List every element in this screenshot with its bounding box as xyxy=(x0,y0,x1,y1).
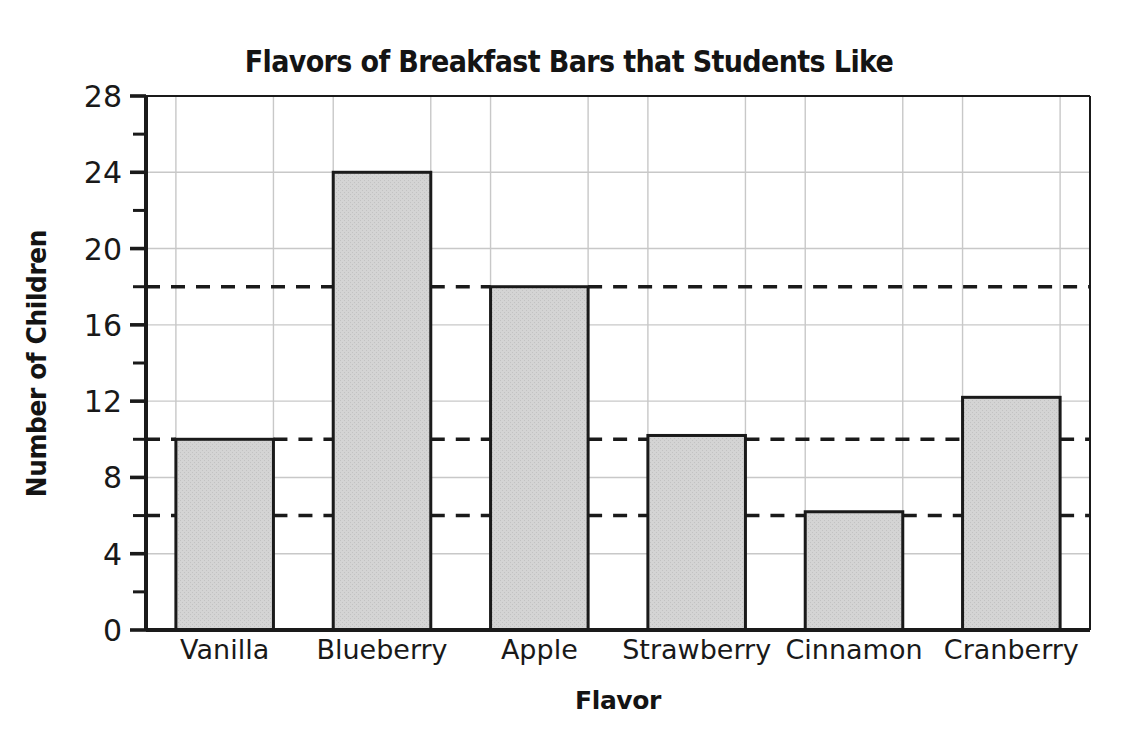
x-category-label: Blueberry xyxy=(316,634,447,665)
bar xyxy=(963,397,1061,630)
x-category-label: Apple xyxy=(501,634,578,665)
y-tick-label: 20 xyxy=(84,232,122,267)
bar xyxy=(491,287,589,630)
y-tick-label: 4 xyxy=(103,537,122,572)
y-tick-label: 0 xyxy=(103,613,122,648)
x-category-label: Cinnamon xyxy=(785,634,922,665)
plot-area: 0481216202428 VanillaBlueberryAppleStraw… xyxy=(0,0,1138,734)
bar xyxy=(333,172,431,630)
y-tick-label: 12 xyxy=(84,384,122,419)
bar xyxy=(648,435,746,630)
x-category-label: Strawberry xyxy=(622,634,771,665)
y-tick-label: 28 xyxy=(84,79,122,114)
y-tick-labels-group: 0481216202428 xyxy=(84,79,122,648)
bar-chart: Flavors of Breakfast Bars that Students … xyxy=(0,0,1138,734)
y-tick-label: 24 xyxy=(84,155,122,190)
y-tick-label: 16 xyxy=(84,308,122,343)
gridlines-group xyxy=(146,96,1090,630)
x-category-labels-group: VanillaBlueberryAppleStrawberryCinnamonC… xyxy=(180,634,1079,665)
x-category-label: Cranberry xyxy=(944,634,1079,665)
x-category-label: Vanilla xyxy=(180,634,269,665)
bar xyxy=(805,512,903,630)
y-tick-label: 8 xyxy=(103,460,122,495)
bar xyxy=(176,439,274,630)
